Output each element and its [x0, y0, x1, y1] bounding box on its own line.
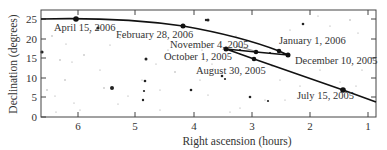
y-tick-label: 10	[26, 72, 38, 84]
label-nov-4-2005: November 4, 2005	[170, 39, 248, 50]
x-tick-label: 4	[191, 120, 197, 132]
y-tick-labels: 0 5 10 15 20 25	[26, 13, 38, 123]
y-tick-label: 0	[32, 111, 38, 123]
y-tick-label: 20	[26, 33, 38, 45]
point-aug-30-2005	[252, 57, 257, 62]
y-tick-label: 5	[32, 91, 38, 103]
x-tick-labels: 6 5 4 3 2 1	[75, 120, 371, 132]
label-jul-15-2005: July 15, 2005	[297, 90, 354, 101]
x-tick-label: 3	[249, 120, 255, 132]
label-aug-30-2005: August 30, 2005	[196, 65, 266, 76]
x-axis-title: Right ascension (hours)	[182, 135, 291, 148]
point-nov-4-2005	[254, 50, 259, 55]
chart: 6 5 4 3 2 1 0 5 10 15 20 25 Right ascens…	[0, 0, 387, 150]
label-jan-1-2006: January 1, 2006	[279, 35, 346, 46]
date-annotations: April 15, 2006 February 28, 2006 Novembe…	[54, 22, 378, 101]
label-oct-1-2005: October 1, 2005	[164, 51, 232, 62]
label-april-15-2006: April 15, 2006	[54, 22, 116, 33]
x-tick-label: 6	[75, 120, 81, 132]
point-april-15-2006	[73, 16, 79, 22]
point-feb-28-2006	[181, 24, 186, 29]
point-dec-10-2005	[286, 53, 291, 58]
label-dec-10-2005: December 10, 2005	[295, 55, 378, 66]
y-tick-label: 25	[26, 13, 38, 25]
x-tick-label: 2	[307, 120, 313, 132]
point-jan-1-2006	[277, 49, 282, 54]
y-axis-title: Declination (degrees)	[7, 14, 20, 113]
y-tick-label: 15	[26, 52, 38, 64]
x-tick-label: 1	[365, 120, 371, 132]
x-tick-label: 5	[132, 120, 138, 132]
